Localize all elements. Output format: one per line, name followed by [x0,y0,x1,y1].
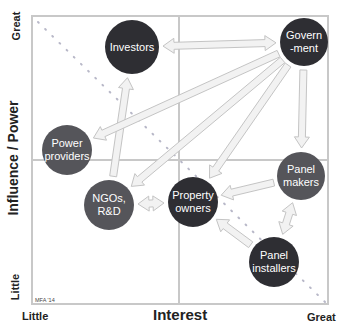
double-arrow-ngos-rd-to-property-owners [138,196,164,211]
y-axis-high-label: Great [10,6,22,46]
node-label: NGOs, R&D [92,192,126,218]
node-panel-installers: Panel installers [249,237,299,287]
node-ngos-rd: NGOs, R&D [84,180,134,230]
node-label: Panel installers [252,249,295,275]
y-axis-title: Influence / Power [5,98,21,218]
x-axis-title: Interest [153,306,207,323]
node-investors: Investors [105,20,159,74]
credit-label: MFA '14 [35,297,55,303]
x-axis-high-label: Great [307,311,336,323]
node-label: Govern -ment [286,29,322,55]
arrow-government-to-panel-makers [294,70,309,148]
arrow-panel-installers-to-property-owners [216,219,253,247]
arrow-government-to-ngos-rd [131,57,284,186]
node-property-owners: Property owners [168,177,218,227]
x-axis-low-label: Little [22,310,48,322]
node-label: Investors [110,41,155,54]
node-label: Property owners [172,189,214,215]
double-arrow-panel-installers-to-panel-makers [279,203,297,235]
node-label: Power providers [44,137,89,163]
node-government: Govern -ment [280,18,328,66]
y-axis-low-label: Little [9,267,21,307]
arrow-panel-makers-to-property-owners [221,179,274,200]
node-power-providers: Power providers [42,125,92,175]
node-label: Panel makers [283,163,319,189]
node-panel-makers: Panel makers [277,152,325,200]
